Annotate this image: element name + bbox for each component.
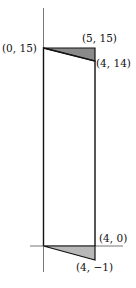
label-top-left: (0, 15) (2, 42, 37, 54)
diagram-canvas: (0, 15) (5, 15) (4, 14) (4, 0) (4, −1) (0, 0, 136, 288)
label-bottom-right: (4, 0) (99, 232, 127, 244)
bottom-shaded-triangle (44, 246, 96, 260)
label-upper-right: (4, 14) (96, 57, 131, 69)
label-top-right: (5, 15) (82, 32, 117, 44)
label-bottom-tip: (4, −1) (76, 261, 113, 273)
region-outline (44, 48, 96, 246)
